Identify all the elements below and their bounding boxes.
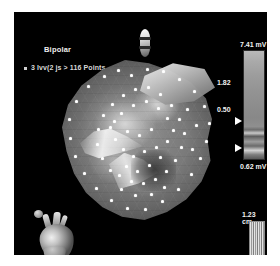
map-viewport[interactable]: Bipolar 3 lvv(2 js > 116 Points <box>14 12 267 255</box>
points-bullet-icon <box>24 67 27 70</box>
mesh-point-marker[interactable] <box>159 156 162 159</box>
mesh-point-marker[interactable] <box>125 165 128 168</box>
mesh-point-marker[interactable] <box>203 105 206 108</box>
catheter-body-icon <box>140 29 150 57</box>
mesh-point-marker[interactable] <box>114 138 117 141</box>
mesh-point-marker[interactable] <box>180 146 183 149</box>
mesh-point-marker[interactable] <box>74 155 77 158</box>
mesh-point-marker[interactable] <box>120 188 123 191</box>
mesh-point-marker[interactable] <box>103 75 106 78</box>
voltage-mesh[interactable] <box>62 60 212 220</box>
mesh-point-marker[interactable] <box>150 193 153 196</box>
mesh-point-marker[interactable] <box>172 129 175 132</box>
mesh-point-marker[interactable] <box>190 173 193 176</box>
mesh-point-marker[interactable] <box>96 143 99 146</box>
mesh-point-marker[interactable] <box>109 126 112 129</box>
mesh-point-marker[interactable] <box>75 100 78 103</box>
mesh-point-marker[interactable] <box>166 140 169 143</box>
mesh-point-marker[interactable] <box>102 114 105 117</box>
mesh-point-marker[interactable] <box>122 148 125 151</box>
mesh-point-marker[interactable] <box>145 100 148 103</box>
mesh-point-marker[interactable] <box>136 170 139 173</box>
mesh-point-marker[interactable] <box>146 68 149 71</box>
mesh-point-marker[interactable] <box>150 128 153 131</box>
mesh-point-marker[interactable] <box>113 120 116 123</box>
mesh-point-marker[interactable] <box>122 94 125 97</box>
voltage-high-threshold-slider[interactable] <box>235 117 242 125</box>
mesh-point-marker[interactable] <box>132 155 135 158</box>
mesh-point-marker[interactable] <box>126 130 129 133</box>
mesh-point-marker[interactable] <box>132 104 135 107</box>
mesh-point-marker[interactable] <box>166 117 169 120</box>
mesh-point-marker[interactable] <box>177 188 180 191</box>
mesh-point-marker[interactable] <box>154 178 157 181</box>
mesh-point-marker[interactable] <box>134 194 137 197</box>
mesh-point-marker[interactable] <box>142 182 145 185</box>
mesh-point-marker[interactable] <box>97 128 100 131</box>
voltage-color-scale[interactable] <box>243 50 265 160</box>
mesh-point-marker[interactable] <box>69 137 72 140</box>
mesh-point-marker[interactable] <box>183 132 186 135</box>
mesh-point-marker[interactable] <box>157 107 160 110</box>
mesh-point-marker[interactable] <box>130 74 133 77</box>
mesh-point-marker[interactable] <box>118 174 121 177</box>
mesh-point-marker[interactable] <box>101 157 104 160</box>
mesh-point-marker[interactable] <box>148 164 151 167</box>
mesh-point-marker[interactable] <box>87 85 90 88</box>
mesh-point-marker[interactable] <box>144 208 147 211</box>
mesh-point-marker[interactable] <box>110 199 113 202</box>
mesh-point-marker[interactable] <box>195 124 198 127</box>
catheter-tip-marker[interactable] <box>138 29 152 57</box>
mesh-point-marker[interactable] <box>165 170 168 173</box>
mesh-point-marker[interactable] <box>143 150 146 153</box>
mesh-point-marker[interactable] <box>205 140 208 143</box>
mesh-point-marker[interactable] <box>111 103 114 106</box>
mesh-point-marker[interactable] <box>83 172 86 175</box>
mesh-point-marker[interactable] <box>178 118 181 121</box>
heart-apex-icon <box>43 245 67 255</box>
mesh-point-marker[interactable] <box>191 148 194 151</box>
catheter-electrode-band <box>139 37 151 40</box>
mesh-point-marker[interactable] <box>162 70 165 73</box>
mesh-point-marker[interactable] <box>120 112 123 115</box>
heart-orientation-icon[interactable] <box>34 210 84 255</box>
mesh-point-marker[interactable] <box>126 207 129 210</box>
mesh-point-marker[interactable] <box>95 187 98 190</box>
mesh-point-marker[interactable] <box>117 69 120 72</box>
voltage-low-threshold-label: 0.50 <box>217 106 231 113</box>
catheter-electrode-band <box>139 46 151 49</box>
mesh-point-marker[interactable] <box>208 122 211 125</box>
mesh-point-marker[interactable] <box>159 93 162 96</box>
map-mode-label: Bipolar <box>44 45 71 54</box>
voltage-max-label: 7.41 mV <box>240 41 266 48</box>
mesh-point-marker[interactable] <box>193 90 196 93</box>
mesh-point-marker[interactable] <box>174 159 177 162</box>
mesh-point-marker[interactable] <box>199 157 202 160</box>
mesh-point-marker[interactable] <box>134 88 137 91</box>
mesh-point-marker[interactable] <box>147 86 150 89</box>
mesh-point-marker[interactable] <box>109 169 112 172</box>
mesh-point-marker[interactable] <box>163 186 166 189</box>
map-window: Bipolar 3 lvv(2 js > 116 Points <box>0 0 280 266</box>
mesh-point-marker[interactable] <box>130 180 133 183</box>
voltage-low-threshold-slider[interactable] <box>235 144 242 152</box>
mesh-point-marker[interactable] <box>170 104 173 107</box>
voltage-high-threshold-label: 1.82 <box>217 79 231 86</box>
mesh-point-marker[interactable] <box>186 108 189 111</box>
ruler-bar-icon <box>249 221 265 255</box>
voltage-min-label: 0.62 mV <box>240 163 266 170</box>
mesh-point-marker[interactable] <box>161 200 164 203</box>
mesh-point-marker[interactable] <box>155 146 158 149</box>
mesh-point-marker[interactable] <box>68 118 71 121</box>
mesh-point-marker[interactable] <box>178 78 181 81</box>
distance-ruler[interactable] <box>249 221 265 255</box>
voltage-color-bar[interactable] <box>243 50 265 160</box>
mesh-point-marker[interactable] <box>138 134 141 137</box>
